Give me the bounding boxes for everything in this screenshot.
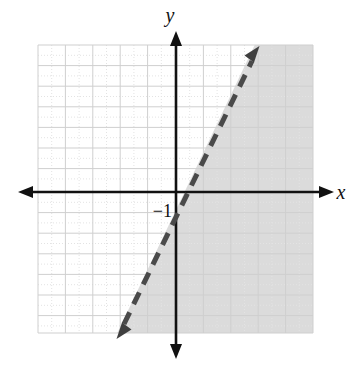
graph-figure: y x −1 [0,0,352,366]
y-tick-label-neg1: −1 [153,201,172,221]
y-axis-arrow-up [170,31,182,46]
x-axis-arrow-left [18,186,33,198]
coordinate-plane-svg: y x −1 [0,0,352,366]
x-axis-arrow-right [319,186,334,198]
x-axis-label: x [336,181,346,203]
y-axis-label: y [164,4,175,27]
y-axis-arrow-down [170,344,182,359]
shaded-region [117,45,313,333]
